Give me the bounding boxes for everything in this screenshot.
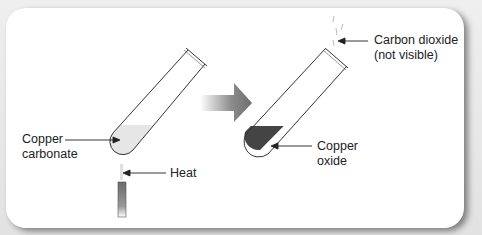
label-copper-oxide: Copper oxide <box>317 139 358 169</box>
label-line: Copper <box>317 139 358 154</box>
label-copper-carbonate: Copper carbonate <box>22 132 78 162</box>
diagram-canvas: Copper carbonate Heat Carbon dioxide (no… <box>0 0 482 235</box>
leader-heat <box>123 170 166 176</box>
leader-carbon-dioxide <box>338 38 368 44</box>
label-line: Copper <box>22 132 78 147</box>
label-heat: Heat <box>170 166 196 181</box>
test-tube-left <box>100 48 207 165</box>
label-line: (not visible) <box>374 48 458 63</box>
label-carbon-dioxide: Carbon dioxide (not visible) <box>374 33 458 63</box>
label-line: oxide <box>317 154 358 169</box>
heat-flame <box>120 164 123 180</box>
leader-copper-oxide <box>271 143 312 149</box>
copper-carbonate-fill <box>100 125 160 165</box>
label-line: carbonate <box>22 147 78 162</box>
label-line: Carbon dioxide <box>374 33 458 48</box>
process-arrow-icon <box>200 83 252 122</box>
